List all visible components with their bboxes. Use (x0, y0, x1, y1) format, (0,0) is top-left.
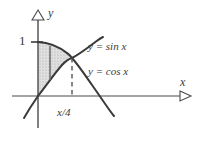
y-axis-arrowhead (32, 10, 44, 20)
x-axis-label: x (180, 76, 185, 88)
shaded-region (38, 30, 72, 96)
cosine-curve-label: y = cos x (88, 66, 128, 77)
y-tick-label-one: 1 (19, 34, 26, 47)
math-figure: y x 1 y = sin x y = cos x x/4 (0, 0, 202, 142)
sine-curve-label: y = sin x (88, 41, 126, 52)
y-axis-label: y (48, 7, 53, 19)
x-tick-label: x/4 (57, 107, 70, 118)
x-axis-arrowhead (180, 91, 191, 101)
